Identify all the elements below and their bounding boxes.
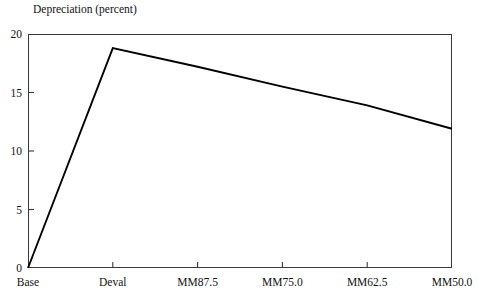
plot-frame — [28, 34, 452, 268]
y-tick-label: 5 — [0, 204, 22, 216]
x-tick-label: MM75.0 — [262, 276, 303, 289]
chart-title: Depreciation (percent) — [33, 2, 137, 16]
y-tick-label: 10 — [0, 145, 22, 157]
x-tick-label: MM50.0 — [432, 276, 473, 289]
x-tick-label: MM62.5 — [347, 276, 388, 289]
y-tick-label: 0 — [0, 262, 22, 274]
x-tick-label: MM87.5 — [177, 276, 218, 289]
x-tick-label: Base — [17, 276, 39, 289]
chart-screenshot: Depreciation (percent) 20151050 BaseDeva… — [0, 0, 479, 302]
x-tick-label: Deval — [99, 276, 126, 289]
y-tick-label: 20 — [0, 28, 22, 40]
y-tick-label: 15 — [0, 87, 22, 99]
